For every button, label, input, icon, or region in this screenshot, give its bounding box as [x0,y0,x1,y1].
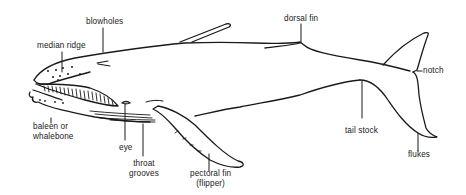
label-flukes: flukes [408,150,430,160]
label-notch: notch [423,66,444,76]
blowhole [97,61,110,66]
lower-jaw [29,92,150,122]
label-pectoral-line1: pectoral fin [190,169,231,179]
label-pectoral-line2: (flipper) [190,179,231,189]
whale-diagram: blowholes median ridge dorsal fin notch … [0,0,466,195]
back-outline [34,42,410,80]
throat-grooves-lines [90,111,155,122]
label-tail-stock: tail stock [345,126,378,136]
belly-outline [195,80,360,116]
label-dorsal-fin: dorsal fin [284,14,318,24]
label-eye: eye [119,143,133,153]
label-pectoral-fin: pectoral fin (flipper) [190,169,231,188]
rostrum [34,72,90,84]
eye-brow [146,100,163,102]
whale-illustration [0,0,466,195]
label-baleen: baleen or whalebone [33,122,74,141]
label-throat-grooves: throat grooves [129,159,159,178]
top-fin [180,24,230,42]
label-blowholes: blowholes [86,17,123,27]
leader-lines [51,24,422,171]
label-throat-line2: grooves [129,169,159,179]
label-throat-line1: throat [129,159,159,169]
label-median-ridge: median ridge [37,41,86,51]
label-baleen-line2: whalebone [33,132,74,142]
eye [122,102,130,104]
label-baleen-line1: baleen or [33,122,74,132]
flipper-knobs [175,131,201,151]
